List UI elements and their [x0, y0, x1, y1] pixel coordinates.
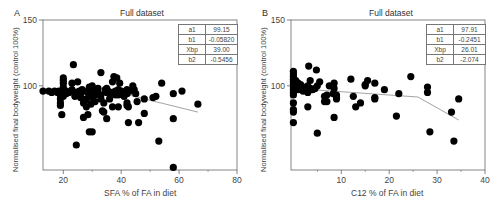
x-tick-label: 10 — [337, 175, 347, 185]
data-point — [100, 109, 107, 116]
data-point — [323, 98, 330, 105]
data-point — [290, 109, 297, 116]
y-tick-label: 100 — [23, 81, 37, 91]
x-tick-label: 20 — [59, 175, 69, 185]
x-tick-label: 40 — [480, 175, 490, 185]
fit-param-row: Xbp39.00 — [179, 45, 238, 55]
data-point — [450, 138, 457, 145]
data-point — [323, 91, 330, 98]
y-tick-label: 100 — [271, 81, 285, 91]
data-point — [393, 113, 400, 120]
fit-param-name: b2 — [427, 55, 454, 65]
data-point — [170, 90, 177, 97]
data-point — [58, 111, 65, 118]
data-point — [395, 90, 402, 97]
fit-param-name: Xbp — [179, 45, 206, 55]
fit-param-row: a197.91 — [427, 25, 486, 35]
data-point — [357, 99, 364, 106]
data-point — [116, 80, 123, 87]
x-tick-label: 30 — [432, 175, 442, 185]
data-point — [135, 119, 142, 126]
fit-params-table-a: a199.15b1-0.05820Xbp39.00b2-0.5456 — [178, 24, 238, 65]
x-tick-label: 40 — [116, 175, 126, 185]
x-tick-label: 80 — [232, 175, 242, 185]
data-point — [194, 101, 201, 108]
data-point — [290, 99, 297, 106]
data-point — [155, 138, 162, 145]
data-point — [170, 164, 177, 171]
data-point — [290, 119, 297, 126]
data-point — [333, 95, 340, 102]
data-point — [381, 86, 388, 93]
x-tick-label: 60 — [174, 175, 184, 185]
panel-a: 10015020406080 A Full dataset Normalised… — [0, 0, 247, 204]
data-point — [314, 130, 321, 137]
data-point — [152, 93, 159, 100]
fit-param-name: b1 — [179, 35, 206, 45]
data-point — [313, 66, 320, 73]
data-point — [448, 109, 455, 116]
fit-param-row: b2-0.5456 — [179, 55, 238, 65]
data-point — [178, 88, 185, 95]
data-point — [347, 76, 354, 83]
panel-b-title: Full dataset — [369, 8, 413, 18]
panel-a-title: Full dataset — [120, 8, 164, 18]
data-point — [134, 98, 141, 105]
data-point — [371, 94, 378, 101]
fit-param-name: a1 — [179, 25, 206, 35]
fit-param-value: 97.91 — [454, 25, 486, 35]
data-point — [304, 103, 311, 110]
data-point — [170, 115, 177, 122]
fit-param-row: b1-0.05820 — [179, 35, 238, 45]
data-point — [426, 128, 433, 135]
fit-param-value: -0.05820 — [206, 35, 238, 45]
data-point — [115, 103, 122, 110]
fit-param-name: b1 — [427, 35, 454, 45]
fit-line — [293, 88, 458, 120]
data-point — [350, 93, 357, 100]
data-point — [141, 110, 148, 117]
data-point — [455, 95, 462, 102]
fit-params-table-b: a197.91b1-0.2451Xbp26.01b2-2.074 — [426, 24, 486, 65]
data-point — [407, 73, 414, 80]
data-point — [307, 77, 314, 84]
data-point — [89, 128, 96, 135]
data-point — [141, 95, 148, 102]
fit-param-row: b1-0.2451 — [427, 35, 486, 45]
data-point — [103, 115, 110, 122]
panel-b-xlabel: C12 % of FA in diet — [351, 188, 423, 198]
data-point — [305, 63, 312, 70]
fit-param-value: -2.074 — [454, 55, 486, 65]
data-point — [60, 74, 67, 81]
panel-label-a: A — [14, 8, 20, 18]
panel-a-ylabel: Normalised final bodyweight (control 100… — [11, 27, 20, 172]
fit-param-name: b2 — [179, 55, 206, 65]
data-point — [158, 80, 165, 87]
data-point — [97, 69, 104, 76]
panel-a-xlabel: SFA % of FA in diet — [104, 188, 176, 198]
fit-param-row: a199.15 — [179, 25, 238, 35]
panel-b-ylabel: Normalised final bodyweight (control 100… — [259, 27, 268, 172]
panel-label-b: B — [262, 8, 268, 18]
data-point — [125, 103, 132, 110]
x-tick-label: 20 — [384, 175, 394, 185]
fit-param-value: 99.15 — [206, 25, 238, 35]
data-point — [57, 102, 64, 109]
data-point — [73, 141, 80, 148]
fit-param-name: Xbp — [427, 45, 454, 55]
data-point — [316, 78, 323, 85]
data-point — [125, 119, 132, 126]
data-point — [74, 78, 81, 85]
data-point — [331, 114, 338, 121]
data-point — [371, 80, 378, 87]
y-tick-label: 150 — [23, 15, 37, 25]
fit-param-row: Xbp26.01 — [427, 45, 486, 55]
fit-param-name: a1 — [427, 25, 454, 35]
data-point — [424, 84, 431, 91]
y-tick-label: 150 — [271, 15, 285, 25]
fit-param-value: 26.01 — [454, 45, 486, 55]
panel-b: 10015010203040 B Full dataset Normalised… — [248, 0, 495, 204]
fit-param-value: 39.00 — [206, 45, 238, 55]
data-point — [84, 111, 91, 118]
fit-param-row: b2-2.074 — [427, 55, 486, 65]
